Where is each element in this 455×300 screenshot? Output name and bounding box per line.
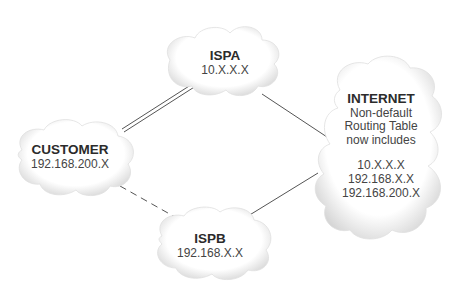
- node-ispa: ISPA 10.X.X.X: [175, 48, 275, 77]
- edge-ispa-internet: [262, 94, 327, 137]
- node-ispb: ISPB 192.168.X.X: [160, 231, 260, 260]
- node-ispb-title: ISPB: [160, 231, 260, 247]
- node-internet-title: INTERNET: [326, 91, 436, 107]
- node-internet-desc-3: now includes: [326, 134, 436, 148]
- node-internet-route-1: 10.X.X.X: [326, 159, 436, 173]
- node-customer-title: CUSTOMER: [10, 142, 130, 158]
- node-customer-address: 192.168.200.X: [10, 158, 130, 172]
- edge-ispb-internet: [248, 173, 318, 216]
- node-internet-route-2: 192.168.X.X: [326, 173, 436, 187]
- node-internet-desc-1: Non-default: [326, 107, 436, 121]
- node-ispa-address: 10.X.X.X: [175, 64, 275, 78]
- node-ispb-address: 192.168.X.X: [160, 247, 260, 261]
- edge-customer-ispb: [120, 186, 175, 217]
- edge-customer-ispa: [122, 81, 199, 132]
- node-internet: INTERNET Non-default Routing Table now i…: [326, 91, 436, 200]
- node-internet-desc-2: Routing Table: [326, 120, 436, 134]
- node-customer: CUSTOMER 192.168.200.X: [10, 142, 130, 171]
- node-ispa-title: ISPA: [175, 48, 275, 64]
- node-internet-route-3: 192.168.200.X: [326, 187, 436, 201]
